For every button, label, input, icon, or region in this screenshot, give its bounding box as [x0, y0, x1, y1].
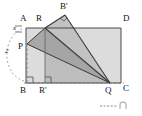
vertex-label-B: B: [20, 86, 26, 95]
vertex-label-R: R: [36, 14, 42, 23]
vertex-label-D: D: [123, 14, 130, 23]
measure-label-2: 2: [5, 48, 9, 55]
geometry-figure: A R B' D P B R' Q C x 2: [0, 0, 142, 116]
vertex-label-A: A: [20, 14, 27, 23]
measure-label-x: x: [13, 25, 16, 32]
vertex-label-C: C: [123, 84, 129, 93]
vertex-label-P: P: [18, 42, 23, 51]
vertex-label-Q: Q: [105, 86, 112, 95]
dashed-arc-radius: [7, 29, 24, 81]
vertex-label-R-prime: R': [39, 86, 47, 95]
watermark-mark: [100, 102, 126, 109]
vertex-label-B-prime: B': [60, 2, 68, 11]
